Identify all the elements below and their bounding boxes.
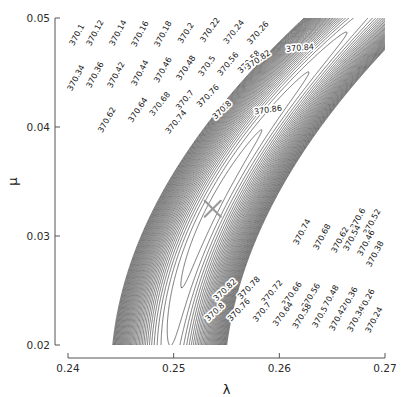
x-axis-tick-label: 0.24 xyxy=(56,362,80,374)
y-axis-tick-label: 0.02 xyxy=(27,339,50,351)
x-axis-tick-label: 0.26 xyxy=(268,362,292,374)
x-axis-tick-label: 0.27 xyxy=(373,362,396,374)
contour-plot-figure: 370.1370.1370.12370.12370.14370.14370.16… xyxy=(0,0,412,397)
x-axis-title: λ xyxy=(223,382,231,397)
y-axis-tick-label: 0.03 xyxy=(27,230,50,242)
x-axis-tick-label: 0.25 xyxy=(162,362,185,374)
y-axis-tick-label: 0.05 xyxy=(27,12,50,24)
y-axis-tick-label: 0.04 xyxy=(27,121,51,133)
plot-canvas: 370.1370.1370.12370.12370.14370.14370.16… xyxy=(0,0,412,397)
y-axis-title: μ xyxy=(5,177,20,185)
